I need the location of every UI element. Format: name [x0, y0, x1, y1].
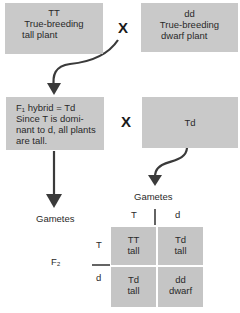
parent-dwarf-genotype: dd: [141, 8, 238, 19]
f1-line4: are tall.: [16, 135, 104, 146]
gamete-side-d: d: [96, 272, 101, 283]
cell-genotype: Td: [111, 274, 156, 285]
parent-dwarf-box: dd True-breeding dwarf plant: [141, 3, 238, 52]
punnett-cell-Td-top: Td tall: [158, 227, 203, 265]
gamete-side-T: T: [96, 239, 102, 250]
parent-dwarf-line1: True-breeding: [141, 19, 238, 30]
cell-genotype: Td: [158, 234, 203, 245]
f1-hybrid-box: F₁ hybrid = Td Since T is domi- nant to …: [6, 97, 104, 150]
cell-genotype: dd: [158, 274, 203, 285]
cell-phenotype: dwarf: [158, 285, 203, 296]
punnett-cell-Td-bottom: Td tall: [111, 267, 156, 307]
cell-phenotype: tall: [111, 245, 156, 256]
cell-phenotype: tall: [111, 285, 156, 296]
f1-td-genotype: Td: [184, 117, 195, 128]
f1-line1: F₁ hybrid = Td: [16, 102, 104, 113]
gamete-top-T: T: [131, 209, 137, 220]
gametes-label-left: Gametes: [36, 213, 75, 224]
f1-td-box: Td: [142, 97, 238, 148]
gamete-top-d: d: [175, 209, 180, 220]
cross-symbol-parents: X: [118, 19, 128, 36]
punnett-cell-dd: dd dwarf: [158, 267, 203, 307]
f2-label: F₂: [51, 256, 61, 267]
parent-tall-box: TT True-breeding tall plant: [5, 3, 103, 54]
gametes-label-right: Gametes: [134, 191, 173, 202]
cell-phenotype: tall: [158, 245, 203, 256]
f1-line2: Since T is domi-: [16, 113, 104, 124]
f1-line3: nant to d, all plants: [16, 124, 104, 135]
parent-dwarf-line2: dwarf plant: [141, 30, 238, 41]
parent-tall-genotype: TT: [5, 7, 103, 18]
punnett-cell-TT: TT tall: [111, 227, 156, 265]
cross-symbol-f1: X: [121, 113, 131, 130]
cell-genotype: TT: [111, 234, 156, 245]
parent-tall-line1: True-breeding: [5, 18, 103, 29]
parent-tall-line2: tall plant: [5, 29, 103, 40]
